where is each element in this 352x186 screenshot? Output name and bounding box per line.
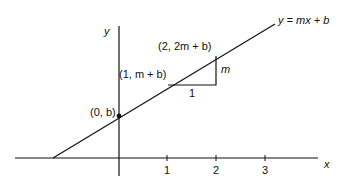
y-axis-label: y [103, 25, 111, 37]
x-tick-label-3: 3 [262, 164, 268, 176]
point-label-1-m-b: (1, m + b) [119, 68, 166, 80]
slope-triangle [168, 56, 216, 85]
x-tick-label-1: 1 [164, 164, 170, 176]
diagram-canvas: y x 1 2 3 (0, b) (1, m + b) (2, 2m + b) … [0, 0, 352, 186]
x-tick-label-2: 2 [213, 164, 219, 176]
point-label-2-2m-b: (2, 2m + b) [158, 40, 212, 52]
slope-intercept-diagram: y x 1 2 3 (0, b) (1, m + b) (2, 2m + b) … [0, 0, 352, 186]
equation-label: y = mx + b [277, 14, 329, 26]
y-intercept-point [117, 114, 122, 119]
point-label-0-b: (0, b) [90, 106, 116, 118]
run-label: 1 [189, 87, 195, 99]
x-axis-label: x [323, 158, 330, 170]
rise-label: m [221, 63, 230, 75]
